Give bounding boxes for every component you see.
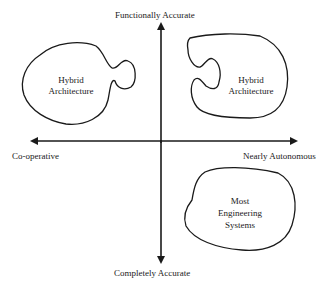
region-upper-left-label: Hybrid Architecture — [36, 75, 106, 97]
region-lower-right-label: Most Engineering Systems — [205, 195, 275, 231]
region-upper-right-label: Hybrid Architecture — [216, 75, 286, 97]
axis-label-right: Nearly Autonomous — [243, 151, 316, 161]
region-label-line: Architecture — [216, 86, 286, 97]
region-label-line: Systems — [205, 219, 275, 231]
region-label-line: Engineering — [205, 207, 275, 219]
axis-label-left: Co-operative — [12, 151, 59, 161]
diagram-canvas — [0, 0, 327, 288]
region-label-line: Hybrid — [36, 75, 106, 86]
region-label-line: Hybrid — [216, 75, 286, 86]
region-label-line: Most — [205, 195, 275, 207]
region-label-line: Architecture — [36, 86, 106, 97]
axis-label-bottom: Completely Accurate — [114, 268, 190, 278]
axis-label-top: Functionally Accurate — [115, 10, 195, 20]
